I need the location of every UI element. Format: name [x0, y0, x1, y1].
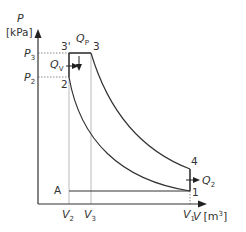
- point-a-label: A: [54, 184, 62, 196]
- compression-curve-1-2: [69, 77, 190, 191]
- qp-arrow-icon: [76, 64, 82, 71]
- point-3-label: 3: [93, 40, 100, 52]
- v3-tick-label: V3: [84, 208, 96, 223]
- q2-arrow-icon: [193, 177, 200, 183]
- p3-tick-label: P3: [24, 47, 35, 62]
- y-axis-label: P: [17, 12, 24, 25]
- qv-label: QV: [50, 58, 64, 73]
- point-1-label: 1: [192, 186, 199, 198]
- qp-label: QP: [76, 32, 89, 47]
- v2-tick-label: V2: [62, 208, 74, 223]
- pv-diagram: P [kPa] V[m3] P3 P2 V2 V3 V1 3 3' 2 4 1 …: [0, 0, 246, 232]
- point-4-label: 4: [191, 155, 198, 167]
- x-axis-unit-close: ]: [223, 210, 227, 223]
- x-axis-unit: [m: [204, 210, 219, 223]
- point-2-label: 2: [61, 78, 68, 90]
- y-axis-arrow-icon: [35, 29, 42, 38]
- y-axis-unit: [kPa]: [6, 26, 33, 38]
- p2-tick-label: P2: [24, 71, 35, 86]
- point-3prime-label: 3': [61, 40, 71, 52]
- x-axis-label-group: V[m3]: [193, 210, 227, 223]
- q2-label: Q2: [202, 174, 215, 189]
- x-axis-arrow-icon: [198, 201, 207, 208]
